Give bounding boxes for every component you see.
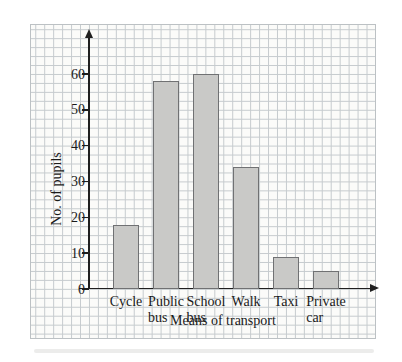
bar-5 [313, 271, 339, 289]
bar-2 [193, 74, 219, 289]
page-scan-shadow [34, 349, 374, 353]
y-tick-label-60: 60 [41, 66, 85, 83]
y-tick-label-50: 50 [41, 101, 85, 118]
x-category-label-3: Walk [231, 294, 260, 310]
y-tick-label-10: 10 [41, 245, 85, 262]
y-axis-title: No. of pupils [49, 152, 65, 226]
bar-4 [273, 257, 299, 289]
graph-paper: 0102030405060 CyclePublic busSchool busW… [30, 24, 376, 339]
bar-0 [113, 225, 139, 289]
x-category-label-0: Cycle [110, 294, 143, 310]
x-category-label-5: Private car [306, 294, 346, 326]
x-axis-arrowhead-icon [370, 284, 379, 292]
y-tick-label-0: 0 [41, 281, 85, 298]
bar-1 [153, 81, 179, 289]
y-axis-arrowhead-icon [85, 29, 93, 38]
bar-3 [233, 167, 259, 289]
x-axis-title: Means of transport [170, 313, 276, 329]
x-category-label-4: Taxi [274, 294, 299, 310]
y-axis-line [88, 37, 90, 289]
bar-chart-figure: 0102030405060 CyclePublic busSchool busW… [0, 0, 402, 362]
